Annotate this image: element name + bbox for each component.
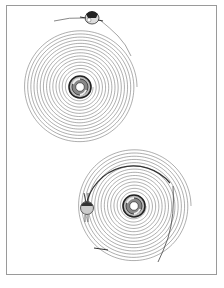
lower-hub-icon [123, 195, 145, 217]
upper-hub-icon [69, 76, 91, 98]
spiral-figure [0, 0, 224, 288]
